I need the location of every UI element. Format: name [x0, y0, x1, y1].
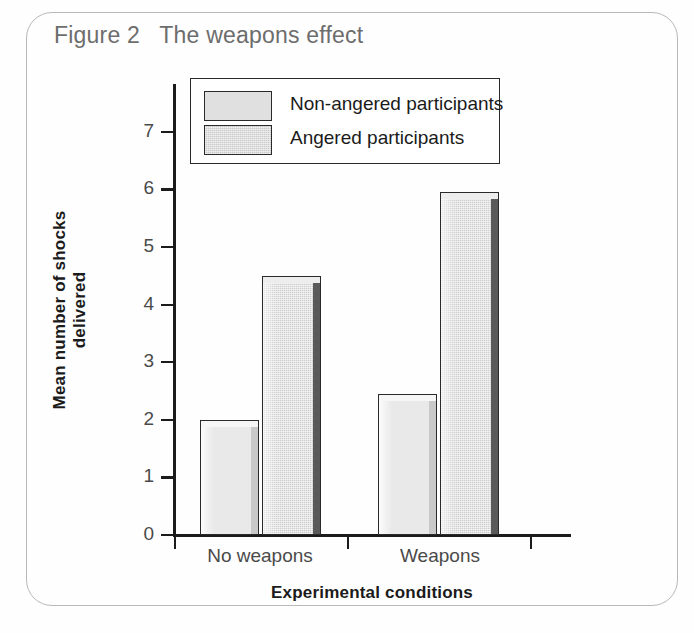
y-axis-tick-4 [161, 304, 174, 306]
bar-highlight [201, 421, 214, 534]
bar-face [200, 420, 259, 535]
bar-shadow [251, 421, 258, 534]
x-category-label-0: No weapons [190, 545, 330, 567]
bar-shadow [491, 193, 498, 534]
bar-no-weapons-angered-participants [262, 276, 321, 535]
legend-swatch-angered-icon [204, 125, 272, 155]
bar-shadow [313, 277, 320, 534]
y-axis-tick-3 [161, 361, 174, 363]
y-axis-tick-label-3: 3 [118, 350, 154, 372]
chart-plot-area: 01234567 No weapons Weapons Experimental… [0, 0, 694, 633]
x-axis-tick-mid [347, 536, 349, 549]
bar-face [262, 276, 321, 535]
bar-weapons-angered-participants [440, 192, 499, 535]
bar-highlight [379, 395, 392, 534]
bar-top-bevel [440, 192, 499, 199]
bar-face [378, 394, 437, 535]
y-axis-line [173, 84, 176, 537]
y-axis-tick-0 [161, 534, 174, 536]
bar-shadow [429, 395, 436, 534]
x-axis-tick-right [530, 536, 532, 549]
bar-highlight [263, 277, 276, 534]
y-axis-tick-label-6: 6 [118, 177, 154, 199]
bar-top-bevel [378, 394, 437, 401]
y-axis-tick-1 [161, 476, 174, 478]
bar-highlight [441, 193, 454, 534]
y-axis-tick-5 [161, 246, 174, 248]
x-category-label-1: Weapons [370, 545, 510, 567]
bar-face [440, 192, 499, 535]
y-axis-tick-label-5: 5 [118, 235, 154, 257]
legend-label-1: Angered participants [290, 127, 464, 149]
y-axis-tick-label-0: 0 [118, 523, 154, 545]
y-axis-tick-label-4: 4 [118, 293, 154, 315]
bar-top-bevel [262, 276, 321, 283]
y-axis-tick-label-1: 1 [118, 465, 154, 487]
bar-weapons-non-angered-participants [378, 394, 437, 535]
figure-container: Figure 2 The weapons effect 01234567 No … [0, 0, 694, 633]
legend-swatch-non-angered-icon [204, 91, 272, 121]
bar-top-bevel [200, 420, 259, 427]
y-axis-tick-2 [161, 419, 174, 421]
bar-no-weapons-non-angered-participants [200, 420, 259, 535]
y-axis-tick-6 [161, 188, 174, 190]
x-axis-title: Experimental conditions [173, 583, 571, 603]
chart-legend: Non-angered participants Angered partici… [190, 78, 500, 164]
y-axis-title: Mean number of shocks delivered [50, 180, 90, 440]
x-axis-tick-left [174, 536, 176, 549]
y-axis-tick-label-2: 2 [118, 408, 154, 430]
y-axis-tick-label-7: 7 [118, 120, 154, 142]
y-axis-tick-7 [161, 131, 174, 133]
legend-label-0: Non-angered participants [290, 93, 503, 115]
